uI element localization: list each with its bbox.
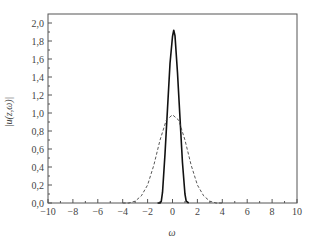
- y-tick-label: 1,6: [32, 54, 45, 65]
- series-solid-line: [158, 30, 189, 203]
- x-tick-label: −6: [92, 206, 103, 217]
- y-tick-label: 0,4: [32, 162, 45, 173]
- y-tick-label: 1,8: [32, 36, 45, 47]
- y-tick-label: 1,4: [32, 72, 45, 83]
- line-chart: −10−8−6−4−20246810 0,00,20,40,60,81,01,2…: [0, 0, 313, 247]
- y-tick-label: 1,2: [32, 90, 45, 101]
- y-tick-label: 0,6: [32, 144, 45, 155]
- y-tick-label: 1,0: [32, 108, 45, 119]
- x-axis: −10−8−6−4−20246810: [40, 199, 302, 217]
- x-tick-label: 2: [195, 206, 200, 217]
- series-dashed-line: [123, 115, 223, 203]
- y-tick-label: 0,8: [32, 126, 45, 137]
- x-tick-label: 6: [245, 206, 250, 217]
- x-tick-label: −4: [117, 206, 128, 217]
- x-tick-label: 10: [292, 206, 302, 217]
- x-tick-label: −2: [142, 206, 153, 217]
- y-tick-label: 2,0: [32, 18, 45, 29]
- y-axis: 0,00,20,40,60,81,01,21,41,61,82,0: [32, 18, 53, 209]
- x-axis-title: ω: [168, 227, 175, 238]
- x-tick-label: 4: [220, 206, 225, 217]
- x-tick-label: 0: [170, 206, 175, 217]
- y-axis-title: |u(z,ω)|: [3, 97, 15, 128]
- x-tick-label: 8: [270, 206, 275, 217]
- y-tick-label: 0,0: [32, 198, 45, 209]
- x-tick-label: −8: [68, 206, 79, 217]
- y-tick-label: 0,2: [32, 180, 45, 191]
- series-layer: [123, 30, 223, 203]
